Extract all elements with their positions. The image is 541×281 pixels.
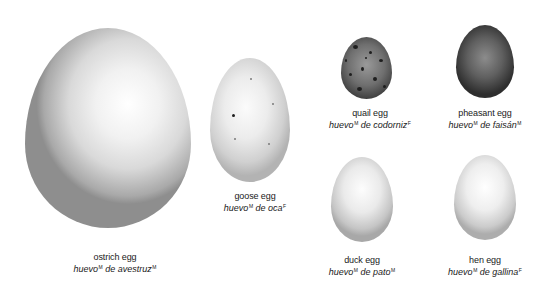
- goose-egg-image: [210, 58, 290, 182]
- english-name: goose egg: [200, 191, 310, 201]
- gender-marker: F: [519, 267, 522, 273]
- gender-marker: F: [283, 203, 286, 209]
- spanish-name: huevoM de gallinaF: [435, 265, 535, 277]
- english-name: quail egg: [320, 108, 420, 118]
- gender-marker: F: [408, 120, 411, 126]
- ostrich-egg-label: ostrich egg huevoM de avestruzM: [45, 252, 185, 274]
- gender-marker: M: [152, 264, 156, 270]
- spanish-name: huevoM de codornizF: [320, 118, 420, 130]
- english-name: pheasant egg: [435, 108, 535, 118]
- quail-egg-image: [341, 37, 392, 99]
- ostrich-egg-image: [25, 28, 191, 228]
- spanish-name: huevoM de faisánM: [435, 118, 535, 130]
- english-name: hen egg: [435, 255, 535, 265]
- duck-egg-image: [331, 157, 393, 242]
- gender-marker: M: [391, 267, 395, 273]
- spanish-name: huevoM de patoM: [312, 265, 412, 277]
- spanish-name: huevoM de ocaF: [200, 201, 310, 213]
- pheasant-egg-label: pheasant egg huevoM de faisánM: [435, 108, 535, 130]
- hen-egg-label: hen egg huevoM de gallinaF: [435, 255, 535, 277]
- duck-egg-label: duck egg huevoM de patoM: [312, 255, 412, 277]
- goose-egg-label: goose egg huevoM de ocaF: [200, 191, 310, 213]
- quail-egg-label: quail egg huevoM de codornizF: [320, 108, 420, 130]
- pheasant-egg-image: [456, 25, 514, 98]
- spanish-name: huevoM de avestruzM: [45, 262, 185, 274]
- english-name: duck egg: [312, 255, 412, 265]
- hen-egg-image: [454, 155, 516, 240]
- english-name: ostrich egg: [45, 252, 185, 262]
- gender-marker: M: [517, 120, 521, 126]
